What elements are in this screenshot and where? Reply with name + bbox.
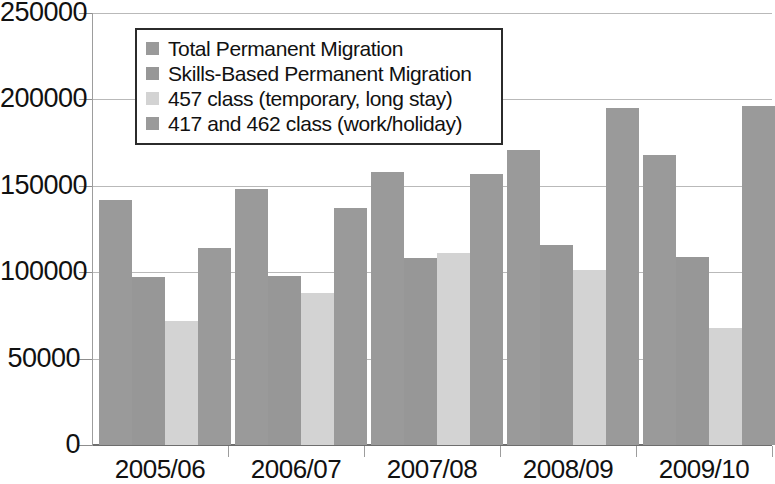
y-axis-tick-label: 50000 — [0, 345, 80, 372]
legend-swatch-icon — [146, 117, 159, 130]
x-axis-category-label: 2006/07 — [228, 455, 364, 483]
bar — [404, 258, 437, 445]
bar — [507, 150, 540, 445]
y-axis-tick — [79, 445, 92, 446]
legend-item: 417 and 462 class (work/holiday) — [146, 111, 492, 136]
x-axis-category-label: 2007/08 — [364, 455, 500, 483]
y-axis-tick-label: 250000 — [0, 0, 80, 26]
x-axis-category-label: 2009/10 — [636, 455, 772, 483]
chart-legend: Total Permanent MigrationSkills-Based Pe… — [135, 28, 503, 145]
bar — [99, 200, 132, 445]
x-axis-category-label: 2005/06 — [92, 455, 228, 483]
bar — [709, 328, 742, 446]
y-axis-tick-label-text: 150000 — [0, 172, 80, 199]
bar — [371, 172, 404, 445]
y-axis-tick-label-text: 50000 — [0, 345, 80, 372]
bar — [301, 293, 334, 445]
y-axis-tick-label-text: 0 — [0, 431, 80, 458]
bar — [132, 277, 165, 445]
bar — [643, 155, 676, 445]
legend-swatch-icon — [146, 42, 159, 55]
bar — [742, 106, 775, 445]
y-axis-tick-label-text: 250000 — [0, 0, 80, 26]
legend-item: Total Permanent Migration — [146, 36, 492, 61]
legend-item: Skills-Based Permanent Migration — [146, 61, 492, 86]
bar — [334, 208, 367, 445]
bar — [198, 248, 231, 445]
y-axis-tick-label: 100000 — [0, 258, 80, 285]
bar — [676, 257, 709, 445]
bar — [165, 321, 198, 445]
legend-swatch-icon — [146, 92, 159, 105]
y-axis-tick-label-text: 200000 — [0, 85, 80, 112]
y-axis-tick-label: 0 — [0, 431, 80, 458]
legend-item-label: 457 class (temporary, long stay) — [168, 88, 452, 110]
legend-item-label: Total Permanent Migration — [168, 38, 403, 60]
legend-swatch-icon — [146, 67, 159, 80]
x-axis-category-label: 2008/09 — [500, 455, 636, 483]
y-axis-tick-label: 200000 — [0, 85, 80, 112]
bar — [606, 108, 639, 445]
legend-item-label: 417 and 462 class (work/holiday) — [168, 113, 462, 135]
bar — [235, 189, 268, 445]
bar — [470, 174, 503, 445]
y-axis-tick — [79, 359, 92, 360]
bar — [573, 270, 606, 445]
bar — [268, 276, 301, 445]
y-axis-tick-label: 150000 — [0, 172, 80, 199]
x-axis-separator — [772, 446, 773, 457]
bar — [540, 245, 573, 445]
y-axis-tick-label-text: 100000 — [0, 258, 80, 285]
legend-item-label: Skills-Based Permanent Migration — [168, 63, 472, 85]
legend-item: 457 class (temporary, long stay) — [146, 86, 492, 111]
bar — [437, 253, 470, 445]
